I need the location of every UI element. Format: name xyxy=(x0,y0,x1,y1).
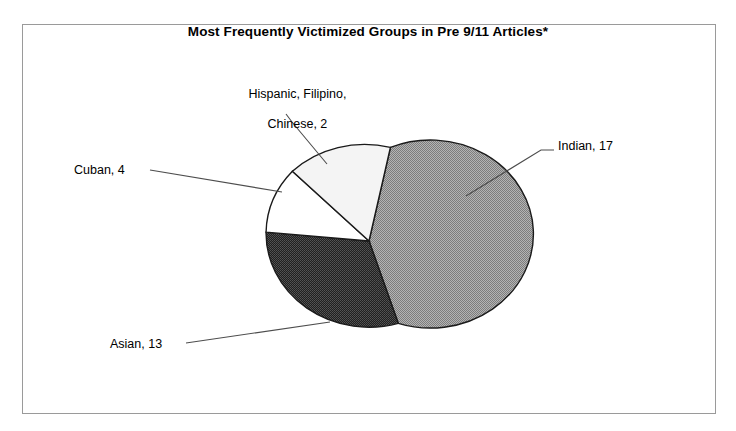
pie-label-asian: Asian, 13 xyxy=(110,337,162,352)
leader-line-cuban xyxy=(150,170,282,192)
pie-label-hfc-line1: Hispanic, Filipino, xyxy=(248,87,346,101)
pie-slice-indian xyxy=(369,140,533,328)
pie-label-indian: Indian, 17 xyxy=(558,139,613,154)
leader-line-asian xyxy=(186,322,330,343)
pie-chart-graphic xyxy=(0,0,736,431)
pie-label-hfc-line2: Chinese, 2 xyxy=(268,117,328,131)
pie-label-hispanic-filipino-chinese: Hispanic, Filipino, Chinese, 2 xyxy=(188,72,393,147)
chart-figure: Most Frequently Victimized Groups in Pre… xyxy=(0,0,736,431)
pie-label-cuban: Cuban, 4 xyxy=(74,163,125,178)
